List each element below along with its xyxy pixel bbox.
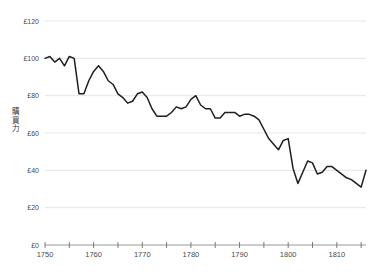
y-tick-label-120: £120 [23, 18, 39, 25]
x-tick-label-1800: 1800 [280, 250, 297, 259]
x-tick-label-1760: 1760 [85, 250, 102, 259]
gridlines-group [45, 21, 366, 208]
x-tick-label-1780: 1780 [183, 250, 200, 259]
y-tick-label-100: £100 [23, 55, 39, 62]
y-tick-label-40: £40 [27, 167, 39, 174]
data-line-series-0 [45, 56, 366, 187]
y-tick-label-0: £0 [31, 242, 39, 249]
x-tick-label-1810: 1810 [328, 250, 345, 259]
y-axis-tick-labels: £0£20£40£60£80£100£120 [23, 18, 39, 249]
y-tick-label-80: £80 [27, 92, 39, 99]
chart-plot-area: £0£20£40£60£80£100£120 17501760177017801… [0, 0, 378, 277]
x-axis-tick-labels: 1750176017701780179018001810 [37, 250, 346, 259]
x-tick-label-1770: 1770 [134, 250, 151, 259]
y-tick-label-60: £60 [27, 130, 39, 137]
x-tick-label-1750: 1750 [37, 250, 54, 259]
x-axis [45, 242, 366, 248]
y-tick-label-20: £20 [27, 204, 39, 211]
x-tick-label-1790: 1790 [231, 250, 248, 259]
data-series-group [45, 56, 366, 187]
purchasing-power-chart: 購 買 力 £0£20£40£60£80£100£120 17501760177… [0, 0, 378, 277]
